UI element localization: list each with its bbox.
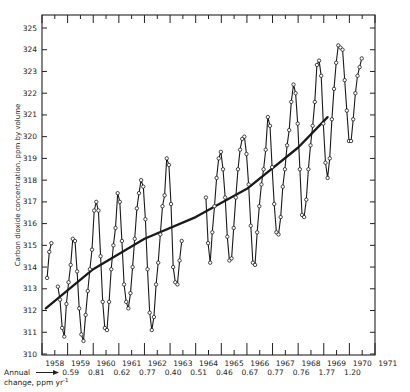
data-point — [296, 122, 299, 125]
annual-change-label: Annual — [4, 368, 30, 377]
data-point — [249, 224, 252, 227]
data-point — [159, 233, 162, 236]
data-point — [236, 168, 239, 171]
data-point — [287, 128, 290, 131]
data-point — [152, 315, 155, 318]
data-point — [133, 237, 136, 240]
annual-change-value: 0.62 — [113, 368, 130, 377]
data-point — [122, 283, 125, 286]
x-tick-label: 1965 — [225, 359, 244, 368]
y-tick-label: 311 — [23, 328, 38, 337]
data-point — [142, 185, 145, 188]
data-point — [305, 198, 308, 201]
data-point — [124, 300, 127, 303]
y-tick-label: 322 — [23, 89, 38, 98]
plot-border — [42, 15, 375, 355]
data-point — [150, 328, 153, 331]
data-point — [97, 209, 100, 212]
data-point — [110, 268, 113, 271]
data-point — [127, 307, 130, 310]
data-point — [309, 144, 312, 147]
data-point — [82, 339, 85, 342]
x-tick-label: 1958 — [45, 359, 64, 368]
y-tick-label: 324 — [23, 45, 38, 54]
data-point — [307, 168, 310, 171]
data-point — [226, 235, 229, 238]
x-tick-label: 1961 — [122, 359, 141, 368]
data-point — [60, 326, 63, 329]
data-point — [112, 244, 115, 247]
annual-change-value: 1.20 — [344, 368, 361, 377]
data-point — [206, 241, 209, 244]
data-point — [120, 239, 123, 242]
annual-change-value: 0.46 — [216, 368, 233, 377]
data-point — [283, 168, 286, 171]
data-point — [154, 283, 157, 286]
annual-change-value: 0.77 — [267, 368, 284, 377]
data-point — [45, 276, 48, 279]
data-point — [180, 239, 183, 242]
data-point — [95, 200, 98, 203]
annual-change-value: 0.81 — [88, 368, 105, 377]
data-point — [264, 148, 267, 151]
data-point — [345, 109, 348, 112]
data-point — [69, 263, 72, 266]
data-point — [131, 265, 134, 268]
data-point — [135, 207, 138, 210]
data-point — [217, 157, 220, 160]
data-point — [107, 300, 110, 303]
data-point — [238, 148, 241, 151]
data-point — [116, 191, 119, 194]
annual-change-value: 0.59 — [62, 368, 79, 377]
data-point — [139, 178, 142, 181]
data-point — [161, 205, 164, 208]
x-tick-label: 1967 — [276, 359, 295, 368]
data-point — [262, 168, 265, 171]
y-axis-label: Carbon dioxide concentration, ppm by vol… — [14, 104, 22, 267]
data-point — [137, 191, 140, 194]
data-point — [88, 268, 91, 271]
data-point — [324, 161, 327, 164]
annual-change-value: 0.40 — [165, 368, 182, 377]
data-point — [356, 74, 359, 77]
data-point — [223, 196, 226, 199]
data-point — [75, 270, 78, 273]
annual-change-value: 1.77 — [318, 368, 335, 377]
data-point — [245, 152, 248, 155]
data-point — [332, 87, 335, 90]
data-point — [63, 335, 66, 338]
data-point — [313, 100, 316, 103]
data-point — [171, 265, 174, 268]
x-tick-label: 1970 — [353, 359, 372, 368]
data-point — [78, 307, 81, 310]
data-point — [204, 196, 207, 199]
data-point — [326, 176, 329, 179]
data-point — [48, 250, 51, 253]
data-point — [315, 63, 318, 66]
data-point — [157, 261, 160, 264]
x-tick-label: 1971 — [378, 359, 397, 368]
data-point — [268, 124, 271, 127]
data-point — [92, 209, 95, 212]
data-line-segment — [47, 243, 51, 278]
data-point — [58, 298, 61, 301]
data-point — [65, 302, 68, 305]
y-tick-label: 315 — [23, 241, 38, 250]
y-axis: 3103113123133143153163173183193203213223… — [23, 24, 375, 359]
data-series — [45, 44, 363, 343]
data-point — [341, 48, 344, 51]
y-tick-label: 321 — [23, 110, 38, 119]
data-point — [213, 205, 216, 208]
data-point — [311, 124, 314, 127]
y-tick-label: 325 — [23, 24, 38, 33]
data-point — [73, 239, 76, 242]
y-tick-label: 310 — [23, 350, 38, 359]
data-point — [320, 74, 323, 77]
data-point — [50, 241, 53, 244]
unit-superscript: -1 — [63, 377, 68, 383]
data-point — [260, 183, 263, 186]
data-point — [322, 122, 325, 125]
y-tick-label: 318 — [23, 176, 38, 185]
x-tick-label: 1962 — [148, 359, 167, 368]
x-tick-label: 1966 — [250, 359, 269, 368]
